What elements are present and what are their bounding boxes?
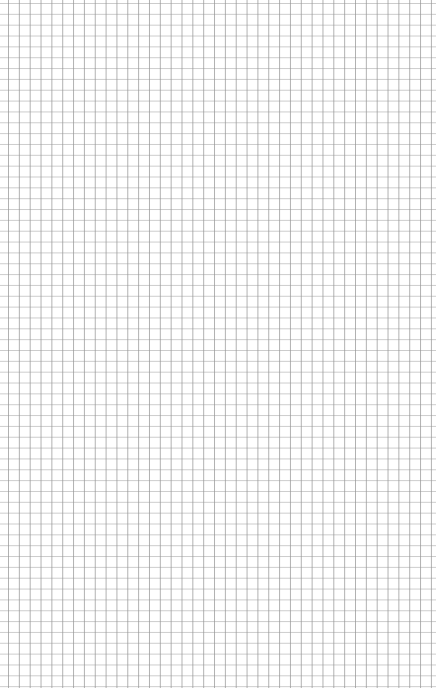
grid-paper [0,0,436,688]
